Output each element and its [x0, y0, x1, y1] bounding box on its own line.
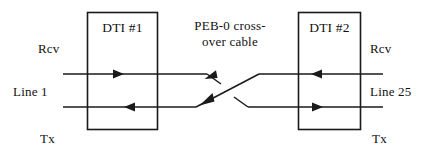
- left-tx-arrowhead-left: [124, 103, 135, 112]
- crossover-cable-caption-line2: over cable: [166, 34, 294, 50]
- right-line-label: Line 25: [370, 85, 411, 100]
- dti-crossover-diagram: DTI #1 DTI #2 PEB-0 cross- over cable Rc…: [0, 0, 438, 157]
- crossover-cable-caption-line1: PEB-0 cross-: [166, 18, 294, 34]
- dti-1-label: DTI #1: [87, 20, 158, 35]
- dti-1-label-wrap: DTI #1: [87, 20, 158, 35]
- left-tx-label: Tx: [40, 132, 55, 147]
- left-line-label: Line 1: [13, 85, 48, 100]
- dti-2-label: DTI #2: [298, 20, 361, 35]
- dti-2-label-wrap: DTI #2: [298, 20, 361, 35]
- left-rcv-label: Rcv: [38, 42, 60, 57]
- left-rcv-arrowhead-right: [113, 70, 124, 79]
- right-rcv-arrowhead-left: [311, 70, 322, 79]
- right-rcv-label: Rcv: [370, 42, 392, 57]
- crossover-lower-stub: [234, 97, 248, 107]
- crossover-main-arrowhead: [200, 93, 215, 106]
- right-tx-label: Tx: [372, 132, 387, 147]
- crossover-cable-caption: PEB-0 cross- over cable: [166, 18, 294, 51]
- right-tx-arrowhead-right: [312, 103, 323, 112]
